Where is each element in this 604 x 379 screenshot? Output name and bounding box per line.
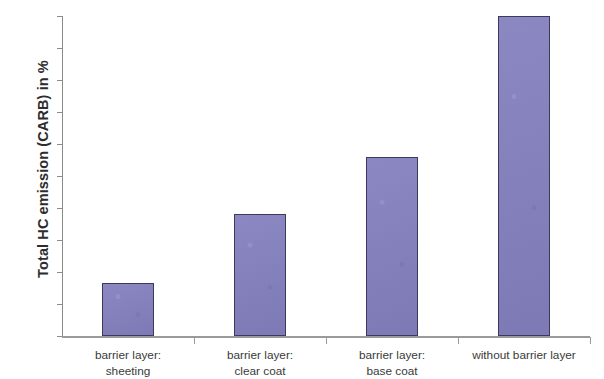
y-tick-mark xyxy=(57,144,62,145)
y-tick-mark xyxy=(57,16,62,17)
x-axis-label: barrier layer: clear coat xyxy=(194,348,326,379)
x-separator-tick xyxy=(458,337,459,344)
x-separator-tick xyxy=(326,337,327,344)
bar xyxy=(234,214,286,336)
y-tick-mark xyxy=(57,176,62,177)
bar-chart: Total HC emission (CARB) in % 100%90%80%… xyxy=(0,0,604,379)
y-tick-mark xyxy=(57,208,62,209)
y-tick-mark xyxy=(57,80,62,81)
bar-texture xyxy=(499,17,549,335)
bar xyxy=(366,157,418,336)
x-separator-tick xyxy=(194,337,195,344)
x-axis-label: barrier layer: sheeting xyxy=(62,348,194,379)
x-axis-label: without barrier layer xyxy=(458,348,590,364)
y-tick-mark xyxy=(57,48,62,49)
y-axis-line xyxy=(62,16,63,336)
x-axis-label: barrier layer: base coat xyxy=(326,348,458,379)
bar-texture xyxy=(103,284,153,335)
y-tick-mark xyxy=(57,240,62,241)
bar xyxy=(102,283,154,336)
y-tick-mark xyxy=(57,336,62,337)
y-tick-mark xyxy=(57,112,62,113)
bar-texture xyxy=(367,158,417,335)
bar-texture xyxy=(235,215,285,335)
plot-area: 100%90%80%70%60%50%40%30%20%10%0% barrie… xyxy=(62,16,590,336)
y-axis-title: Total HC emission (CARB) in % xyxy=(35,19,57,319)
x-separator-tick xyxy=(590,337,591,344)
y-tick-mark xyxy=(57,304,62,305)
y-tick-mark xyxy=(57,272,62,273)
bar xyxy=(498,16,550,336)
